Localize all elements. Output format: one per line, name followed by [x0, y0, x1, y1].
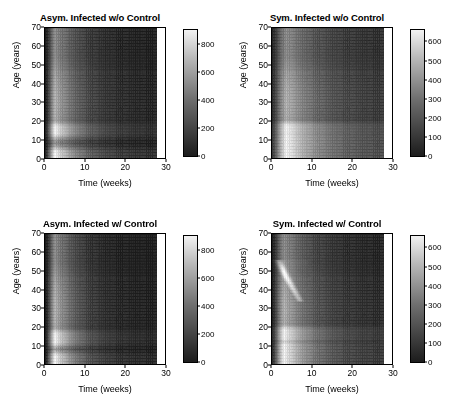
x-tick-label: 0 [42, 365, 47, 378]
y-tick-label: 70 [259, 228, 271, 238]
y-tick-label: 0 [36, 154, 44, 164]
y-tick-label: 10 [32, 135, 44, 145]
y-tick-label: 60 [259, 247, 271, 257]
colorbar-tick-mark [197, 306, 200, 307]
y-tick-label: 20 [32, 116, 44, 126]
panel-asym-infected-w-control: Asym. Infected w/ Control010203040506070… [0, 206, 227, 412]
heatmap-canvas [45, 28, 165, 158]
x-tick-mark [125, 365, 126, 368]
y-tick-label: 20 [259, 116, 271, 126]
heatmap-plot-area[interactable] [44, 27, 166, 159]
x-tick-label: 0 [269, 159, 274, 172]
x-axis-label: Time (weeks) [44, 384, 166, 394]
panel-title: Sym. Infected w/o Control [227, 12, 427, 23]
colorbar-tick-mark [424, 98, 427, 99]
colorbar: 0100200300400500600 [410, 235, 425, 363]
colorbar-tick-mark [424, 136, 427, 137]
colorbar-tick-mark [424, 362, 427, 363]
y-axis-label: Age (years) [238, 25, 248, 105]
x-tick-mark [352, 365, 353, 368]
x-tick-label: 10 [307, 159, 316, 172]
x-tick-mark [84, 365, 85, 368]
x-axis-label: Time (weeks) [271, 384, 393, 394]
heatmap-plot-area[interactable] [271, 27, 393, 159]
colorbar-gradient [411, 30, 424, 156]
y-tick-label: 30 [259, 303, 271, 313]
x-tick-mark [393, 159, 394, 162]
y-tick-label: 20 [32, 322, 44, 332]
x-tick-label: 0 [42, 159, 47, 172]
colorbar-tick-mark [197, 44, 200, 45]
x-tick-label: 20 [348, 159, 357, 172]
heatmap-canvas [45, 234, 165, 364]
panel-title: Asym. Infected w/o Control [0, 12, 200, 23]
x-axis-label: Time (weeks) [271, 178, 393, 188]
colorbar: 0200400600800 [183, 29, 198, 157]
y-tick-label: 50 [259, 266, 271, 276]
y-tick-label: 40 [32, 285, 44, 295]
colorbar-tick-mark [424, 285, 427, 286]
colorbar-tick-mark [197, 156, 200, 157]
panel-sym-infected-wo-control: Sym. Infected w/o Control010203040506070… [227, 0, 454, 206]
colorbar-tick-mark [424, 247, 427, 248]
y-axis-label: Age (years) [11, 25, 21, 105]
x-tick-mark [84, 159, 85, 162]
y-tick-label: 40 [259, 285, 271, 295]
y-tick-label: 60 [32, 247, 44, 257]
colorbar-tick-mark [197, 334, 200, 335]
y-axis-label: Age (years) [238, 231, 248, 311]
colorbar-tick-mark [424, 304, 427, 305]
y-tick-label: 70 [259, 22, 271, 32]
x-tick-label: 30 [161, 159, 170, 172]
colorbar-tick-mark [197, 100, 200, 101]
y-tick-label: 0 [36, 360, 44, 370]
heatmap-canvas [272, 234, 392, 364]
heatmap-plot-area[interactable] [271, 233, 393, 365]
panel-title: Sym. Infected w/ Control [227, 218, 427, 229]
colorbar-tick-mark [424, 41, 427, 42]
colorbar-gradient [411, 236, 424, 362]
y-tick-label: 10 [259, 135, 271, 145]
x-tick-mark [166, 365, 167, 368]
colorbar-tick-mark [197, 362, 200, 363]
colorbar-tick-mark [197, 250, 200, 251]
heatmap-canvas [272, 28, 392, 158]
y-tick-label: 10 [259, 341, 271, 351]
y-tick-label: 10 [32, 341, 44, 351]
x-tick-label: 20 [121, 365, 130, 378]
colorbar-tick-mark [197, 278, 200, 279]
y-tick-label: 60 [32, 41, 44, 51]
x-tick-label: 10 [80, 159, 89, 172]
colorbar-tick-mark [424, 79, 427, 80]
x-tick-label: 20 [121, 159, 130, 172]
colorbar-tick-mark [197, 128, 200, 129]
y-axis-label: Age (years) [11, 231, 21, 311]
x-tick-label: 30 [161, 365, 170, 378]
x-tick-mark [311, 365, 312, 368]
y-tick-label: 30 [32, 303, 44, 313]
colorbar-tick-mark [424, 323, 427, 324]
colorbar-tick-mark [424, 117, 427, 118]
heatmap-plot-area[interactable] [44, 233, 166, 365]
y-tick-label: 70 [32, 228, 44, 238]
x-tick-label: 0 [269, 365, 274, 378]
x-tick-label: 10 [80, 365, 89, 378]
y-tick-label: 20 [259, 322, 271, 332]
y-tick-label: 50 [32, 60, 44, 70]
x-axis-label: Time (weeks) [44, 178, 166, 188]
x-tick-mark [166, 159, 167, 162]
y-tick-label: 70 [32, 22, 44, 32]
x-tick-label: 10 [307, 365, 316, 378]
x-tick-mark [44, 159, 45, 162]
y-tick-label: 30 [32, 97, 44, 107]
colorbar-tick-mark [424, 156, 427, 157]
y-tick-label: 0 [263, 360, 271, 370]
x-tick-mark [271, 159, 272, 162]
y-tick-label: 50 [259, 60, 271, 70]
x-tick-mark [393, 365, 394, 368]
colorbar-gradient [184, 236, 197, 362]
colorbar-tick-mark [424, 60, 427, 61]
x-tick-mark [352, 159, 353, 162]
y-tick-label: 50 [32, 266, 44, 276]
colorbar-gradient [184, 30, 197, 156]
